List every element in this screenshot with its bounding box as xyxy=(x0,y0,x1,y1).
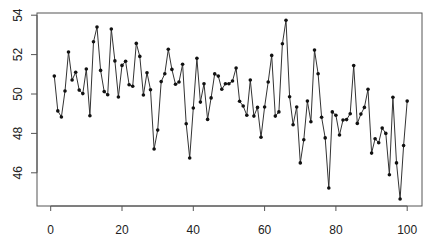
data-point xyxy=(334,114,338,118)
data-point xyxy=(231,79,235,83)
data-point xyxy=(199,100,203,104)
data-point xyxy=(149,88,153,92)
data-point xyxy=(220,88,224,92)
data-point xyxy=(152,147,156,151)
data-point xyxy=(249,78,253,82)
data-point xyxy=(95,25,99,29)
x-tick-label: 20 xyxy=(115,223,129,237)
data-point xyxy=(88,114,92,118)
data-point xyxy=(192,106,196,110)
data-point xyxy=(388,173,392,177)
data-point xyxy=(370,151,374,155)
data-point xyxy=(102,90,106,94)
data-point xyxy=(217,74,221,78)
data-point xyxy=(331,110,335,114)
data-point xyxy=(241,104,245,108)
data-point xyxy=(256,106,260,110)
x-tick-label: 100 xyxy=(397,223,417,237)
data-point xyxy=(159,80,163,84)
data-point xyxy=(99,69,103,73)
data-point xyxy=(323,136,327,140)
data-point xyxy=(263,105,267,109)
data-point xyxy=(277,110,281,114)
data-point xyxy=(395,161,399,165)
data-point xyxy=(213,72,217,76)
data-point xyxy=(74,71,78,75)
data-point xyxy=(252,114,256,118)
data-point xyxy=(309,120,313,124)
data-point xyxy=(356,122,360,126)
data-point xyxy=(306,99,310,103)
data-point xyxy=(174,83,178,87)
data-point xyxy=(274,114,278,118)
data-point xyxy=(138,55,142,59)
data-point xyxy=(67,50,71,54)
data-point xyxy=(227,82,231,86)
data-point xyxy=(234,66,238,70)
data-point xyxy=(63,89,67,93)
data-point xyxy=(142,93,146,97)
data-point xyxy=(327,186,331,190)
data-point xyxy=(85,67,89,71)
x-tick-label: 80 xyxy=(329,223,343,237)
data-point xyxy=(338,133,342,137)
data-point xyxy=(110,27,114,31)
x-tick-label: 60 xyxy=(258,223,272,237)
x-tick-label: 0 xyxy=(47,223,54,237)
data-point xyxy=(124,60,128,64)
y-tick-label: 46 xyxy=(11,166,25,180)
data-point xyxy=(195,57,199,61)
data-point xyxy=(177,80,181,84)
data-line xyxy=(54,20,407,199)
data-point xyxy=(398,197,402,201)
data-point xyxy=(167,48,171,52)
data-point xyxy=(281,42,285,46)
data-point xyxy=(302,138,306,142)
y-axis: 4648505254 xyxy=(11,8,37,179)
data-point xyxy=(299,161,303,165)
data-point xyxy=(145,71,149,75)
data-point xyxy=(391,96,395,100)
data-point xyxy=(131,85,135,89)
data-point xyxy=(156,128,160,132)
data-point xyxy=(188,156,192,160)
data-point xyxy=(363,106,367,110)
x-tick-label: 40 xyxy=(187,223,201,237)
data-point xyxy=(209,96,213,100)
data-point xyxy=(284,19,288,23)
data-point xyxy=(402,144,406,148)
data-point xyxy=(288,95,292,99)
data-point xyxy=(81,92,85,96)
data-point xyxy=(170,68,174,72)
data-point xyxy=(184,122,188,126)
data-point xyxy=(352,64,356,68)
data-point xyxy=(238,100,242,104)
data-point xyxy=(206,118,210,122)
data-point xyxy=(366,88,370,92)
data-point xyxy=(313,48,317,52)
data-point xyxy=(135,42,139,46)
data-point xyxy=(224,82,228,86)
y-tick-label: 50 xyxy=(11,87,25,101)
data-point xyxy=(92,40,96,44)
x-axis: 020406080100 xyxy=(47,206,417,237)
data-point xyxy=(291,123,295,127)
data-point xyxy=(77,88,81,92)
data-point xyxy=(53,74,57,78)
data-point xyxy=(113,59,117,63)
data-points xyxy=(53,19,410,201)
y-tick-label: 52 xyxy=(11,48,25,62)
data-point xyxy=(245,114,249,118)
data-point xyxy=(380,126,384,130)
data-point xyxy=(373,137,377,141)
data-point xyxy=(259,136,263,140)
data-point xyxy=(345,118,349,122)
data-point xyxy=(359,112,363,116)
data-point xyxy=(117,95,121,99)
data-point xyxy=(341,118,345,122)
data-point xyxy=(405,99,409,103)
data-point xyxy=(56,109,60,113)
data-point xyxy=(348,112,352,116)
data-point xyxy=(60,115,64,119)
data-point xyxy=(320,115,324,119)
